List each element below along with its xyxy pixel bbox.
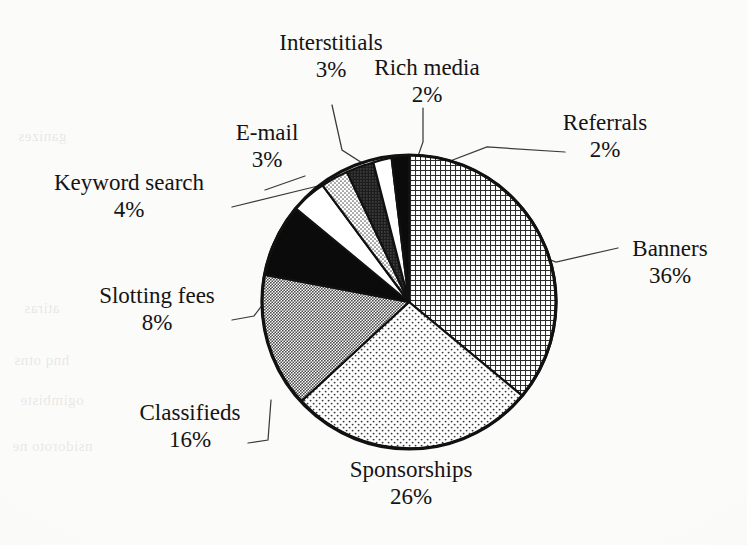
label-rich-media-value: 2% bbox=[352, 82, 502, 109]
label-rich-media-name: Rich media bbox=[374, 55, 479, 80]
label-slotting-fees-value: 8% bbox=[72, 310, 242, 337]
leader-line-email bbox=[265, 176, 305, 190]
label-classifieds: Classifieds 16% bbox=[110, 400, 270, 453]
label-sponsorships-name: Sponsorships bbox=[350, 457, 473, 482]
label-banners-value: 36% bbox=[600, 263, 740, 290]
label-keyword-search-name: Keyword search bbox=[54, 170, 204, 195]
label-email: E-mail 3% bbox=[202, 120, 332, 173]
label-referrals: Referrals 2% bbox=[530, 110, 680, 163]
label-slotting-fees: Slotting fees 8% bbox=[72, 283, 242, 336]
label-classifieds-name: Classifieds bbox=[140, 400, 241, 425]
label-keyword-search: Keyword search 4% bbox=[24, 170, 234, 223]
label-keyword-search-value: 4% bbox=[24, 197, 234, 224]
label-banners-name: Banners bbox=[632, 236, 707, 261]
label-referrals-value: 2% bbox=[530, 137, 680, 164]
label-banners: Banners 36% bbox=[600, 236, 740, 289]
label-email-name: E-mail bbox=[236, 120, 299, 145]
label-slotting-fees-name: Slotting fees bbox=[99, 283, 215, 308]
label-classifieds-value: 16% bbox=[110, 427, 270, 454]
label-interstitials-name: Interstitials bbox=[279, 30, 382, 55]
label-referrals-name: Referrals bbox=[563, 110, 647, 135]
label-sponsorships: Sponsorships 26% bbox=[311, 457, 511, 510]
pie-chart-page: ganizes atiras hnq otns ogimbiste nsidor… bbox=[0, 0, 747, 545]
label-sponsorships-value: 26% bbox=[311, 484, 511, 511]
label-rich-media: Rich media 2% bbox=[352, 55, 502, 108]
